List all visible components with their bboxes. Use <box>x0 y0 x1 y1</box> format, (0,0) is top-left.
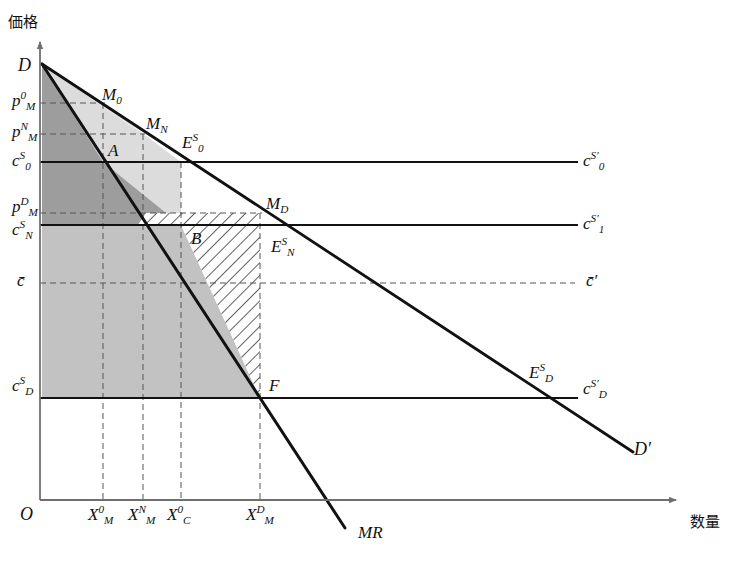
point-label-md: MD <box>266 195 288 212</box>
point-label-e0s-base: E <box>182 133 192 152</box>
y-label-p-m-n: pNM <box>12 123 37 140</box>
point-label-md-base: M <box>266 194 280 213</box>
right-label-c-bar-prime-base: c̄′ <box>586 271 597 290</box>
y-label-p-m-d-sup: D <box>21 195 29 207</box>
y-label-c-d-s-base: c <box>12 376 20 395</box>
right-label-c-1-s-prime: cS′1 <box>583 215 604 232</box>
x-label-x-m-d-base: X <box>246 505 256 524</box>
point-label-d: D <box>18 56 31 74</box>
point-label-mn-base: M <box>146 114 160 133</box>
point-label-f: F <box>269 377 279 394</box>
y-label-c-n-s-base: c <box>12 220 20 239</box>
y-label-p-m-n-base: p <box>12 122 21 141</box>
point-label-eds-base: E <box>529 363 539 382</box>
x-label-x-m-0-sub: M <box>104 514 113 526</box>
y-label-c-0-s-base: c <box>12 151 20 170</box>
x-label-x-c-0-sub: C <box>183 514 190 526</box>
right-label-c-0-s-prime-sub: 0 <box>599 160 605 172</box>
x-label-x-m-0: X0M <box>88 506 113 523</box>
point-label-e0s-sub: 0 <box>198 142 204 154</box>
point-label-m0-base: M <box>102 85 116 104</box>
x-label-x-m-d: XDM <box>246 506 274 523</box>
x-label-x-m-n-sub: M <box>146 514 155 526</box>
y-label-p-m-d-base: p <box>12 197 21 216</box>
point-label-a: A <box>108 142 118 159</box>
origin-label: O <box>20 505 33 523</box>
x-label-x-m-n: XNM <box>128 506 155 523</box>
point-label-f-base: F <box>269 376 279 395</box>
y-label-p-m-n-sup: N <box>21 120 28 132</box>
figure-root: 価格 数量 O p0M pNM cS0 pDM cSN c̄ cSD X0M X… <box>0 0 735 569</box>
point-label-b: B <box>191 230 201 247</box>
right-label-c-d-s-prime-sup: S′ <box>591 377 599 389</box>
x-label-x-m-d-sub: M <box>265 514 274 526</box>
right-label-c-1-s-prime-sup: S′ <box>591 212 599 224</box>
y-label-p-m-0-sub: M <box>26 100 35 112</box>
y-label-c-n-s-sub: N <box>25 229 32 241</box>
right-label-c-0-s-prime-sup: S′ <box>591 149 599 161</box>
y-label-c-0-s: cS0 <box>12 152 31 169</box>
point-label-m0: M0 <box>102 86 122 103</box>
right-label-c-d-s-prime-sub: D <box>599 388 607 400</box>
point-label-b-base: B <box>191 229 201 248</box>
y-label-p-m-d: pDM <box>12 198 38 215</box>
y-label-p-m-d-sub: M <box>29 206 38 218</box>
y-label-c-bar-base: c̄ <box>17 271 25 290</box>
right-label-c-1-s-prime-base: c <box>583 214 591 233</box>
right-label-c-d-s-prime: cS′D <box>583 380 607 397</box>
y-label-p-m-0: p0M <box>12 92 35 109</box>
point-label-ens: ESN <box>271 238 294 255</box>
x-label-x-m-n-sup: N <box>138 503 145 515</box>
point-label-m0-sub: 0 <box>116 94 122 106</box>
x-axis-title: 数量 <box>690 510 720 531</box>
x-label-x-m-0-base: X <box>88 505 98 524</box>
point-label-d-base: D <box>18 55 31 75</box>
y-label-c-n-s: cSN <box>12 221 33 238</box>
y-axis-title: 価格 <box>8 10 38 31</box>
right-label-c-0-s-prime-base: c <box>583 151 591 170</box>
x-label-x-c-0: X0C <box>167 506 190 523</box>
point-label-eds-sub: D <box>545 372 553 384</box>
x-label-x-m-n-base: X <box>128 505 138 524</box>
point-label-eds: ESD <box>529 364 553 381</box>
y-label-c-bar: c̄ <box>17 272 25 289</box>
point-label-a-base: A <box>108 141 118 160</box>
point-label-e0s: ES0 <box>182 134 204 151</box>
y-label-c-d-s-sub: D <box>25 385 33 397</box>
x-label-x-c-0-base: X <box>167 505 177 524</box>
right-label-c-0-s-prime: cS′0 <box>583 152 604 169</box>
x-label-x-m-d-sup: D <box>256 503 264 515</box>
point-label-d-prime: D′ <box>634 440 651 458</box>
point-label-mr-base: MR <box>358 523 383 542</box>
y-label-p-m-0-base: p <box>12 91 21 110</box>
point-label-mr: MR <box>358 524 383 541</box>
point-label-md-sub: D <box>280 203 288 215</box>
right-label-c-1-s-prime-sub: 1 <box>599 223 605 235</box>
right-label-c-bar-prime: c̄′ <box>586 272 597 289</box>
point-label-d-prime-base: D′ <box>634 439 651 459</box>
point-label-mn-sub: N <box>160 123 167 135</box>
y-label-c-0-s-sub: 0 <box>25 160 31 172</box>
point-label-ens-sub: N <box>287 246 294 258</box>
y-label-c-d-s: cSD <box>12 377 33 394</box>
right-label-c-d-s-prime-base: c <box>583 379 591 398</box>
point-label-mn: MN <box>146 115 168 132</box>
point-label-ens-base: E <box>271 237 281 256</box>
y-label-p-m-n-sub: M <box>28 131 37 143</box>
